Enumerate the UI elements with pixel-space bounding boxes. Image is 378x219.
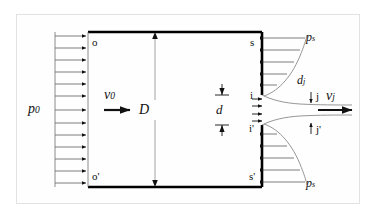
label-node-s-prime: s' (249, 170, 255, 182)
label-node-j: j (316, 90, 319, 102)
inlet-velocity-arrows (55, 36, 86, 183)
outlet-pressure-arrows-lower (264, 134, 305, 182)
label-node-o-prime: o' (92, 170, 99, 182)
label-node-o: o (92, 36, 98, 48)
label-static-pressure-bottom: ps (306, 176, 315, 191)
label-node-i-prime: i' (249, 122, 254, 134)
label-jet-velocity: vj (326, 88, 335, 104)
label-static-pressure-top: ps (306, 30, 315, 45)
label-node-j-prime: j' (316, 123, 321, 135)
orifice-flow-figure: p0 v0 D d dj vj ps ps o o' s s' i i' j j… (0, 0, 378, 219)
orifice-converging-arrows (252, 99, 262, 121)
label-tank-diameter: D (139, 102, 149, 118)
inlet-reference-line (55, 32, 88, 187)
label-node-s: s (250, 36, 254, 48)
diagram-canvas (0, 0, 378, 219)
label-inlet-velocity: v0 (104, 87, 115, 103)
label-jet-diameter: dj (297, 73, 305, 88)
label-orifice-diameter: d (216, 102, 223, 118)
label-node-i: i (250, 89, 253, 101)
outlet-pressure-profile-curves (264, 35, 307, 185)
label-inlet-pressure: p0 (28, 101, 40, 117)
